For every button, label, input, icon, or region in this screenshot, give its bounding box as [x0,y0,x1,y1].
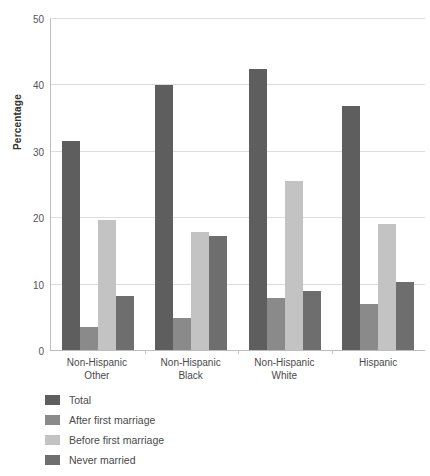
legend: TotalAfter first marriageBefore first ma… [45,390,164,470]
x-axis-category-label: Non-HispanicOther [50,357,144,382]
category-label-line: White [238,370,332,383]
bar [209,236,227,350]
bar [62,141,80,350]
bar [155,85,173,350]
legend-item[interactable]: Never married [45,450,164,470]
bar-chart: Percentage 01020304050 Non-HispanicOther… [0,0,430,476]
x-axis-tick [145,350,146,354]
y-axis-tick-labels: 01020304050 [0,19,44,351]
legend-label: Before first marriage [69,434,164,446]
bar [267,298,285,350]
category-label-line: Black [144,370,238,383]
bar [285,181,303,350]
y-tick-label: 50 [4,14,44,25]
bar-group [332,19,426,350]
x-axis-category-label: Non-HispanicWhite [238,357,332,382]
legend-item[interactable]: After first marriage [45,410,164,430]
legend-item[interactable]: Before first marriage [45,430,164,450]
x-axis-tick [332,350,333,354]
legend-swatch [45,395,60,405]
bar [98,220,116,350]
legend-label: Total [69,394,91,406]
y-tick-label: 10 [4,279,44,290]
bar-group [51,19,145,350]
category-label-line: Non-Hispanic [144,357,238,370]
x-axis-category-label: Non-HispanicBlack [144,357,238,382]
x-axis-category-label: Hispanic [331,357,425,382]
bar [342,106,360,350]
plot-area [50,19,425,351]
legend-item[interactable]: Total [45,390,164,410]
bar-group [238,19,332,350]
y-tick-label: 20 [4,213,44,224]
bar-group [145,19,239,350]
bar [173,318,191,350]
legend-swatch [45,435,60,445]
bar [396,282,414,350]
y-tick-label: 30 [4,146,44,157]
category-label-line: Non-Hispanic [238,357,332,370]
bar [378,224,396,350]
legend-label: Never married [69,454,136,466]
category-label-line: Other [50,370,144,383]
x-axis-tick [238,350,239,354]
category-label-line: Hispanic [331,357,425,370]
legend-label: After first marriage [69,414,155,426]
bar [116,296,134,350]
bar [191,232,209,350]
y-tick-label: 40 [4,80,44,91]
legend-swatch [45,415,60,425]
bar [249,69,267,350]
category-label-line: Non-Hispanic [50,357,144,370]
bar-groups [51,19,425,350]
legend-swatch [45,455,60,465]
bar [80,327,98,350]
bar [303,291,321,350]
x-axis-category-labels: Non-HispanicOtherNon-HispanicBlackNon-Hi… [50,357,425,382]
bar [360,304,378,350]
y-tick-label: 0 [4,346,44,357]
